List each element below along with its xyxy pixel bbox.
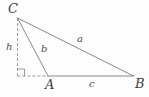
side-label-a: a xyxy=(77,34,83,44)
side-label-c: c xyxy=(89,79,95,89)
altitude-label-h: h xyxy=(6,42,12,52)
right-angle-marker-icon xyxy=(18,69,25,76)
vertex-label-C: C xyxy=(8,2,18,15)
side-label-b: b xyxy=(41,44,47,54)
edge-a-line xyxy=(18,18,134,76)
vertex-label-A: A xyxy=(45,78,54,91)
triangle-diagram-svg xyxy=(0,0,149,97)
vertex-label-B: B xyxy=(135,77,145,90)
geometry-figure: C A B a b c h xyxy=(0,0,149,97)
